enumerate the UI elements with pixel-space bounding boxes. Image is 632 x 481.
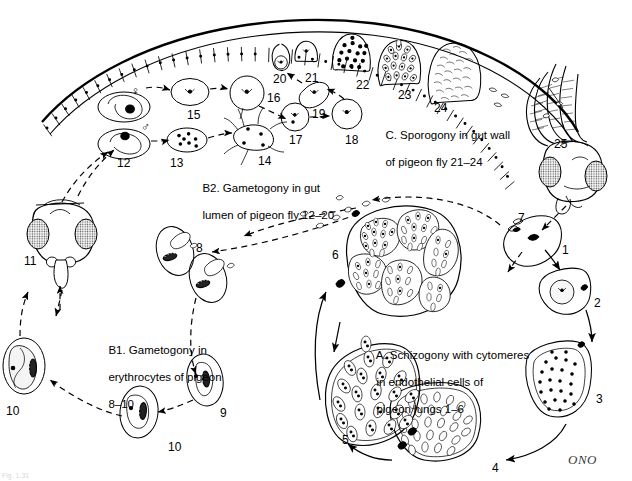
stage-number-merozoite-release: 6: [332, 248, 339, 262]
stage-number-oocyst-nuclear-division: 22: [356, 78, 369, 92]
stage-number-sporozoite-entering-endothelial-cell: 1: [562, 243, 569, 257]
stage-number-ookinete: 19: [312, 107, 325, 121]
caption-c-line1: C. Sporogony in gut wall: [385, 129, 510, 141]
stage-15-macrogamete: [171, 79, 209, 106]
stage-number-zygote-maturing: 18: [345, 133, 358, 147]
stage-number-young-gametocyte-in-erythrocyte: 8: [196, 241, 203, 255]
arrow-10-to-11-ingestion: [20, 292, 28, 336]
stage-6-merozoite-release: [336, 206, 461, 316]
stage-number-fertilization-zygote: 16: [267, 91, 280, 105]
stage-18-zygote: [332, 99, 362, 129]
stage-number-young-oocyst: 21: [305, 71, 318, 85]
figure-caption-cropped: Fig. 1.31: [2, 472, 29, 479]
stage-24-mature-oocyst: [428, 43, 480, 104]
stage-13-microgametocyte: [167, 128, 207, 152]
caption-a-line2: in endothelial cells of: [376, 376, 483, 388]
arrow-3-to-4: [506, 424, 566, 460]
caption-b1-line1: B1. Gametogony in: [108, 344, 206, 356]
stage-number-merozoites-to-blood: 7: [518, 211, 525, 225]
caption-b1: B1. Gametogony in erythrocytes of pigeon…: [102, 330, 222, 411]
female-macrogametocyte-symbol: ♀: [131, 84, 140, 99]
arrow-6-up: [334, 322, 340, 352]
stage-number-gametocytes-released-in-gut: 12: [117, 156, 130, 170]
stage-3-multinucleate-schizont: [526, 341, 592, 417]
arrow-fly-bite-to-pigeon: [542, 206, 566, 230]
stage-number-ookinete-penetrating-epithelium: 20: [273, 72, 286, 86]
arrow-15-to-16: [210, 88, 228, 89]
stage-number-zygote: 17: [289, 133, 302, 147]
arrow-fly-inoculation: [508, 252, 522, 272]
caption-a-line1: A. Schizogony with cytomeres: [376, 349, 529, 361]
stage-8b-erythrocyte-gametocyte: [183, 249, 233, 308]
stage-number-microgamete: 14: [258, 154, 271, 168]
male-microgametocyte-symbol: ♂: [141, 120, 150, 135]
artist-signature: ONO: [568, 452, 597, 468]
stage-number-pigeon-fly-head-ingestion: 11: [24, 254, 36, 268]
caption-b2-line1: B2. Gametogony in gut: [202, 182, 320, 194]
pigeon-fly-head-right: [539, 141, 607, 214]
stage-1-endothelial-cell: [504, 216, 562, 267]
caption-b1-line3: 8–10: [108, 398, 134, 410]
stage-10-macrogametocyte-left: [3, 338, 45, 394]
stage-number-microgametocyte-exflagellation: 13: [170, 156, 183, 170]
caption-c: C. Sporogony in gut wall of pigeon fly 2…: [379, 115, 510, 169]
stage-22-oocyst-nuclei: [333, 34, 371, 71]
arrow-19-to-20: [287, 73, 302, 83]
caption-c-line2: of pigeon fly 21–24: [385, 156, 482, 168]
stage-23-oocyst-sporoblasts: [378, 39, 421, 85]
stage-25-salivary-glands: [527, 64, 588, 146]
stage-number-mature-gametocyte: 10: [168, 440, 181, 454]
figure-canvas: A. Schizogony with cytomeres in endothel…: [0, 0, 632, 481]
stage-number-mature-cytomeres: 5: [342, 433, 349, 447]
stage-number-growing-gametocyte: 9: [220, 406, 227, 420]
caption-b2: B2. Gametogony in gut lumen of pigeon fl…: [196, 168, 334, 222]
free-sporozoites: [489, 88, 509, 107]
caption-a: A. Schizogony with cytomeres in endothel…: [370, 335, 529, 416]
stage-16-zygote: [230, 76, 264, 119]
stage-14-microgamete: [224, 108, 287, 165]
caption-b1-line2: erythrocytes of pigeon: [108, 371, 221, 383]
stage-number-mature-gametocyte-macrogametocyte: 10: [6, 404, 19, 418]
arrow-11-to-12: [62, 152, 108, 202]
stage-number-multinucleate-schizont: 3: [596, 392, 603, 406]
stage-number-sporozoites-in-salivary-glands: 25: [554, 137, 567, 151]
caption-a-line3: pigeon lungs 1–6: [376, 403, 464, 415]
caption-b2-line2: lumen of pigeon fly 12–20: [202, 209, 334, 221]
stage-number-oocyst-sporoblasts: 23: [398, 88, 411, 102]
arrow-2-to-3: [586, 310, 592, 342]
stage-number-macrogamete: 15: [187, 108, 200, 122]
stage-number-uninucleate-trophozoite: 2: [594, 296, 601, 310]
stage-8-erythrocyte-young-gametocyte: [150, 222, 200, 281]
stage-number-mature-oocyst-sporozoites: 24: [434, 101, 447, 115]
stage-19-ookinete: [299, 82, 329, 108]
pigeon-fly-head-left-stage-11: [27, 200, 97, 288]
arrow-macro-to-15: [146, 87, 170, 90]
stage-20-ookinete-penetration: [272, 44, 290, 71]
arrow-12-to-13: [151, 140, 169, 141]
arrow-13-to-14: [208, 133, 232, 138]
arrow-5-to-6: [315, 292, 326, 400]
stage-2-trophozoite: [539, 268, 590, 314]
stage-number-cytomere-formation: 4: [492, 461, 499, 475]
arrow-into-fly: [56, 290, 62, 316]
arrow-4-to-5: [348, 444, 392, 460]
